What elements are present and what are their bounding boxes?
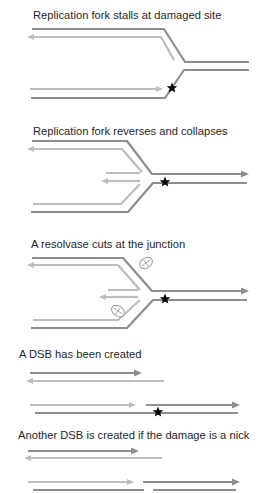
arrowhead-left-icon xyxy=(99,294,106,300)
arrowhead-right-icon xyxy=(232,402,240,409)
panel-title: Another DSB is created if the damage is … xyxy=(18,429,250,441)
panel-resolvase-cuts: A resolvase cuts at the junction xyxy=(27,238,249,328)
arrowhead-right-icon xyxy=(131,448,139,455)
panel-dsb-created: A DSB has been created xyxy=(19,348,240,417)
arrowhead-left-icon xyxy=(27,146,34,152)
parental-strand-bottom xyxy=(31,300,247,328)
arrowhead-right-icon xyxy=(129,402,136,408)
star-icon xyxy=(160,177,171,187)
parental-strand-top xyxy=(32,141,242,174)
arrowhead-right-icon xyxy=(134,370,142,377)
panel-title: A resolvase cuts at the junction xyxy=(31,238,185,250)
nascent-strand-top xyxy=(33,149,142,172)
star-icon xyxy=(153,407,164,417)
panel-title: Replication fork reverses and collapses xyxy=(33,125,228,137)
nascent-strand-top xyxy=(33,265,140,290)
arrowhead-left-icon xyxy=(27,34,34,40)
panel-fork-reverses: Replication fork reverses and collapses xyxy=(27,125,249,212)
parental-strand-bottom xyxy=(31,183,247,212)
panel-title: A DSB has been created xyxy=(19,348,142,360)
arrowhead-left-icon xyxy=(24,455,31,461)
nascent-strand-top xyxy=(33,37,174,60)
arrowhead-left-icon xyxy=(101,178,108,184)
arrowhead-right-icon xyxy=(241,288,249,295)
panel-second-dsb: Another DSB is created if the damage is … xyxy=(18,429,250,490)
arrowhead-right-icon xyxy=(232,479,240,486)
arrowhead-left-icon xyxy=(26,378,33,384)
parental-strand-top xyxy=(32,29,249,62)
arrowhead-right-icon xyxy=(241,171,249,178)
nascent-strand-bottom xyxy=(33,184,140,204)
arrowhead-right-icon xyxy=(156,86,163,92)
resolvase-icon xyxy=(109,303,126,319)
parental-strand-bottom xyxy=(31,70,249,98)
dna-repair-diagram: Replication fork stalls at damaged site … xyxy=(0,0,258,493)
arrowhead-right-icon xyxy=(127,479,134,485)
resolvase-icon xyxy=(137,255,154,271)
star-icon xyxy=(160,294,171,304)
arrowhead-left-icon xyxy=(27,262,34,268)
panel-title: Replication fork stalls at damaged site xyxy=(33,9,221,21)
panel-fork-stalls: Replication fork stalls at damaged site xyxy=(27,9,249,98)
